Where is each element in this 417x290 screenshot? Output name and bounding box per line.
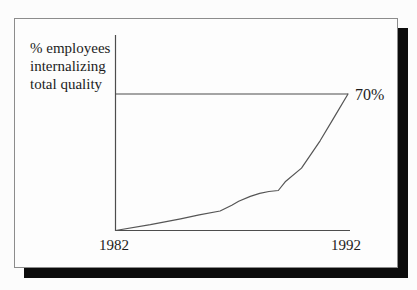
x-tick-1992: 1992 [326,237,366,254]
y-axis-label-line-3: total quality [30,75,125,93]
figure-stage: % employees internalizing total quality … [0,0,417,290]
y-axis-label-line-2: internalizing [30,57,125,75]
reference-line-label: 70% [355,86,384,104]
y-axis-label-line-1: % employees [30,39,125,57]
x-tick-1982: 1982 [94,237,134,254]
y-axis-label: % employees internalizing total quality [30,39,125,93]
